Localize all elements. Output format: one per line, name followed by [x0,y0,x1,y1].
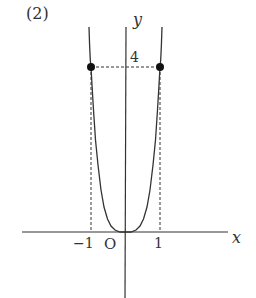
problem-label: (2) [26,4,49,23]
point-neg1-4 [87,63,95,71]
tick-label-1: 1 [154,235,163,251]
y-axis [125,27,126,298]
origin-label: O [104,235,116,253]
y-axis-label: y [132,10,143,29]
tick-label-4: 4 [130,49,139,65]
tick-label-neg1: −1 [73,235,94,251]
x-axis-label: x [232,228,241,247]
graph: (2) y x O −1 1 4 [0,0,256,298]
point-1-4 [156,63,164,71]
